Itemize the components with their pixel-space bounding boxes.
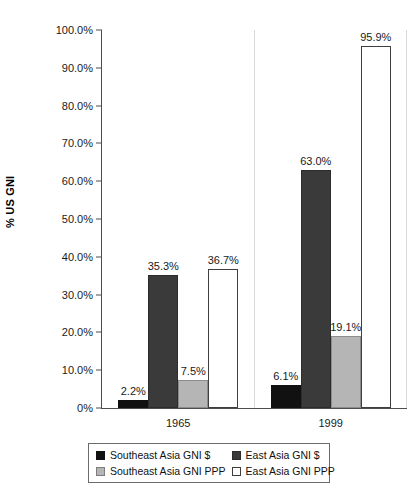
- bar-value-label: 19.1%: [330, 321, 361, 333]
- y-axis-tick-label: 100.0%: [23, 24, 102, 36]
- bar-group-bars: 2.2%35.3%7.5%36.7%: [102, 30, 255, 408]
- y-axis-tick-label: 0%: [23, 402, 102, 414]
- bar-value-label: 6.1%: [273, 370, 298, 382]
- bar-value-label: 2.2%: [121, 385, 146, 397]
- y-axis-title: % US GNI: [4, 108, 16, 228]
- bar-slot: 19.1%: [331, 30, 361, 408]
- bar-1965-1[interactable]: [118, 400, 148, 408]
- legend-swatch-icon: [232, 467, 241, 476]
- bar-group-bars: 6.1%63.0%19.1%95.9%: [255, 30, 408, 408]
- bar-slot: 6.1%: [271, 30, 301, 408]
- legend-item[interactable]: Southeast Asia GNI PPP: [96, 465, 226, 477]
- bar-1965-4[interactable]: [208, 269, 238, 408]
- bar-slot: 7.5%: [178, 30, 208, 408]
- y-axis-tick-label: 70.0%: [23, 137, 102, 149]
- bar-1999-4[interactable]: [361, 46, 391, 409]
- x-axis-category-label: 1965: [102, 417, 255, 429]
- legend-swatch-icon: [96, 467, 105, 476]
- legend-label: Southeast Asia GNI PPP: [110, 465, 226, 477]
- y-axis-tick-label: 10.0%: [23, 364, 102, 376]
- bar-1965-2[interactable]: [148, 275, 178, 408]
- legend-item[interactable]: East Asia GNI $: [232, 449, 335, 461]
- y-axis-tick-label: 30.0%: [23, 289, 102, 301]
- bar-value-label: 95.9%: [360, 31, 391, 43]
- bar-slot: 63.0%: [301, 30, 331, 408]
- legend-label: East Asia GNI $: [246, 449, 320, 461]
- bar-slot: 2.2%: [118, 30, 148, 408]
- y-axis-tick-label: 40.0%: [23, 251, 102, 263]
- bar-chart: % US GNI 100.0%90.0%80.0%70.0%60.0%50.0%…: [0, 0, 417, 493]
- chart-legend: Southeast Asia GNI $East Asia GNI $South…: [88, 443, 330, 483]
- bar-1999-3[interactable]: [331, 336, 361, 408]
- y-axis-tick-label: 50.0%: [23, 213, 102, 225]
- plot-area: 100.0%90.0%80.0%70.0%60.0%50.0%40.0%30.0…: [101, 30, 407, 409]
- bar-slot: 35.3%: [148, 30, 178, 408]
- bar-slot: 36.7%: [208, 30, 238, 408]
- legend-label: Southeast Asia GNI $: [110, 449, 210, 461]
- bar-slot: 95.9%: [361, 30, 391, 408]
- y-axis-tick-label: 20.0%: [23, 326, 102, 338]
- legend-swatch-icon: [232, 451, 241, 460]
- bar-1999-2[interactable]: [301, 170, 331, 408]
- y-axis-tick-label: 80.0%: [23, 100, 102, 112]
- x-axis-category-label: 1999: [255, 417, 408, 429]
- legend-item[interactable]: East Asia GNI PPP: [232, 465, 335, 477]
- bar-1999-1[interactable]: [271, 385, 301, 408]
- bar-value-label: 7.5%: [181, 365, 206, 377]
- bar-value-label: 63.0%: [300, 155, 331, 167]
- legend-swatch-icon: [96, 451, 105, 460]
- bar-value-label: 35.3%: [148, 260, 179, 272]
- legend-label: East Asia GNI PPP: [246, 465, 335, 477]
- bar-group-1965: 2.2%35.3%7.5%36.7%1965: [102, 30, 255, 408]
- bar-1965-3[interactable]: [178, 380, 208, 408]
- bar-value-label: 36.7%: [208, 254, 239, 266]
- legend-item[interactable]: Southeast Asia GNI $: [96, 449, 226, 461]
- y-axis-tick-label: 60.0%: [23, 175, 102, 187]
- y-axis-tick-label: 90.0%: [23, 62, 102, 74]
- bar-group-1999: 6.1%63.0%19.1%95.9%1999: [255, 30, 408, 408]
